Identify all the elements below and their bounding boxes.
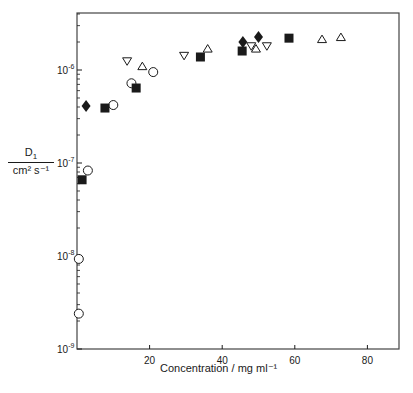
filled-square-point [132, 84, 141, 93]
open-triangle-up-point [336, 33, 345, 41]
y-axis-label: D1 cm² s⁻¹ [8, 146, 54, 177]
filled-square-point [238, 47, 247, 56]
filled-square-point [196, 52, 205, 61]
y-label-denominator: cm² s⁻¹ [8, 163, 54, 177]
open-triangle-up-point [203, 45, 212, 53]
filled-diamond-point [238, 36, 247, 48]
x-tick-label: 60 [289, 355, 301, 366]
open-circle-point [149, 68, 158, 77]
open-circle-point [109, 101, 118, 110]
filled-square-point [78, 175, 87, 184]
open-triangle-up-point [138, 62, 147, 70]
data-points [74, 31, 345, 318]
filled-diamond-point [82, 100, 91, 112]
y-tick-label: 10-9 [57, 342, 74, 355]
x-tick-label: 20 [144, 355, 156, 366]
y-tick-label: 10-7 [57, 156, 74, 169]
y-tick-label: 10-6 [57, 63, 74, 76]
plot-frame [77, 13, 399, 349]
x-tick-label: 80 [362, 355, 374, 366]
open-triangle-down-point [123, 58, 132, 66]
x-axis-label: Concentration / mg ml⁻¹ [160, 362, 277, 375]
scatter-chart: 10-910-810-710-6 20406080 [0, 0, 413, 393]
filled-square-point [284, 34, 293, 43]
filled-diamond-point [254, 31, 263, 43]
open-circle-point [83, 166, 92, 175]
y-tick-label: 10-8 [57, 249, 74, 262]
open-triangle-up-point [318, 35, 327, 43]
filled-square-point [100, 104, 109, 113]
y-axis-ticks: 10-910-810-710-6 [57, 14, 82, 355]
open-circle-point [74, 254, 83, 263]
plot-border [77, 13, 399, 349]
open-triangle-down-point [262, 43, 271, 51]
y-label-subscript: 1 [33, 152, 37, 161]
open-circle-point [74, 309, 83, 318]
open-triangle-down-point [180, 52, 189, 60]
y-label-numerator: D [25, 146, 33, 158]
